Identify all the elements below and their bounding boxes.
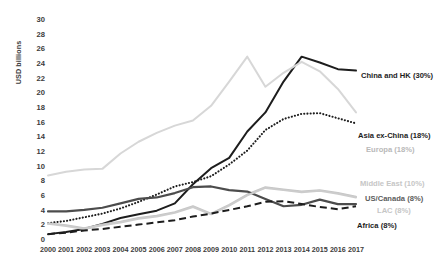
x-tick-label: 2010 — [221, 246, 237, 253]
series-label-africa: Africa (8%) — [357, 222, 397, 230]
series-line — [48, 57, 356, 176]
series-label-middle-east: Middle East (10%) — [360, 180, 425, 188]
x-tick-label: 2011 — [239, 246, 255, 253]
series-label-china-and-hk: China and HK (30%) — [361, 72, 433, 80]
x-tick-label: 2015 — [312, 246, 328, 253]
series-line — [48, 57, 356, 234]
series-label-asia-ex-china: Asia ex-China (18%) — [358, 132, 431, 140]
x-tick-label: 2017 — [348, 246, 364, 253]
x-tick-label: 2012 — [257, 246, 273, 253]
series-line — [48, 113, 356, 223]
x-tick-label: 2013 — [276, 246, 292, 253]
x-tick-label: 2016 — [330, 246, 346, 253]
series-line — [48, 201, 356, 234]
x-tick-label: 2003 — [94, 246, 110, 253]
x-tick-label: 2004 — [112, 246, 128, 253]
series-label-us-canada: US/Canada (8%) — [365, 195, 423, 203]
series-label-lac: LAC (8%) — [377, 207, 411, 215]
x-tick-label: 2008 — [185, 246, 201, 253]
series-label-europa: Europa (18%) — [366, 146, 415, 154]
x-tick-label: 2005 — [131, 246, 147, 253]
x-axis-tick-labels: 2000200120022003200420052006200720082009… — [48, 246, 428, 260]
x-tick-label: 2006 — [149, 246, 165, 253]
x-tick-label: 2001 — [58, 246, 74, 253]
x-tick-label: 2009 — [203, 246, 219, 253]
x-tick-label: 2014 — [294, 246, 310, 253]
chart-container: USD billions 024681012141618202224262830… — [0, 0, 444, 267]
x-tick-label: 2002 — [76, 246, 92, 253]
x-tick-label: 2000 — [40, 246, 56, 253]
x-tick-label: 2007 — [167, 246, 183, 253]
